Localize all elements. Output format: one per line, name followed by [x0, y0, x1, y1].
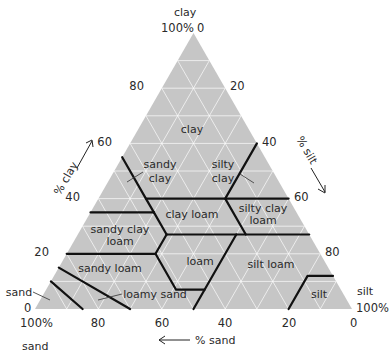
clay-tick-20: 20 [34, 245, 49, 259]
sand-tick-60: 60 [155, 316, 170, 330]
region-label-silty-clay: siltyclay [212, 158, 235, 185]
vertex-name-clay: clay [174, 6, 197, 19]
silt-axis-title: % silt [293, 134, 325, 193]
sand-tick-40: 40 [218, 316, 233, 330]
vertex-tick-sand-0: 0 [350, 316, 357, 330]
vertex-pct-sand: 100% [20, 316, 53, 330]
sand-tick-20: 20 [282, 316, 297, 330]
clay-tick-40: 40 [65, 190, 80, 204]
region-label-sand: sand [6, 286, 32, 299]
clay-tick-60: 60 [97, 135, 112, 149]
clay-tick-80: 80 [129, 79, 144, 93]
vertex-name-silt: silt [357, 285, 374, 298]
sand-axis-title: % sand [159, 334, 235, 347]
soil-texture-triangle: clay sandyclay siltyclay clay loam silty… [0, 0, 389, 354]
silt-axis-label: % silt [293, 134, 320, 167]
sand-axis-label: % sand [195, 334, 235, 347]
vertex-name-sand: sand [22, 340, 48, 353]
silt-arrow-shaft [311, 168, 325, 192]
silt-tick-60: 60 [294, 190, 309, 204]
region-label-sandy-loam: sandy loam [78, 262, 142, 275]
region-label-loamy-sand: loamy sand [123, 288, 187, 301]
region-label-silt: silt [311, 288, 328, 301]
clay-axis-title: % clay [51, 140, 93, 198]
silt-tick-80: 80 [325, 245, 340, 259]
vertex-pct-clay: 100% [161, 21, 194, 35]
region-label-loam: loam [186, 255, 213, 268]
silt-tick-40: 40 [262, 135, 277, 149]
region-label-clay: clay [181, 123, 204, 136]
region-label-clay-loam: clay loam [165, 208, 218, 221]
vertex-tick-sand-clay-0: 0 [24, 301, 31, 315]
clay-arrow-shaft [77, 141, 92, 168]
region-label-silt-loam: silt loam [248, 258, 295, 271]
vertex-tick-clay-silt-0: 0 [197, 21, 204, 35]
sand-axis-ticks: 80 60 40 20 [91, 316, 297, 330]
vertex-pct-silt: 100% [356, 301, 389, 315]
sand-tick-80: 80 [91, 316, 106, 330]
silt-tick-20: 20 [230, 79, 245, 93]
